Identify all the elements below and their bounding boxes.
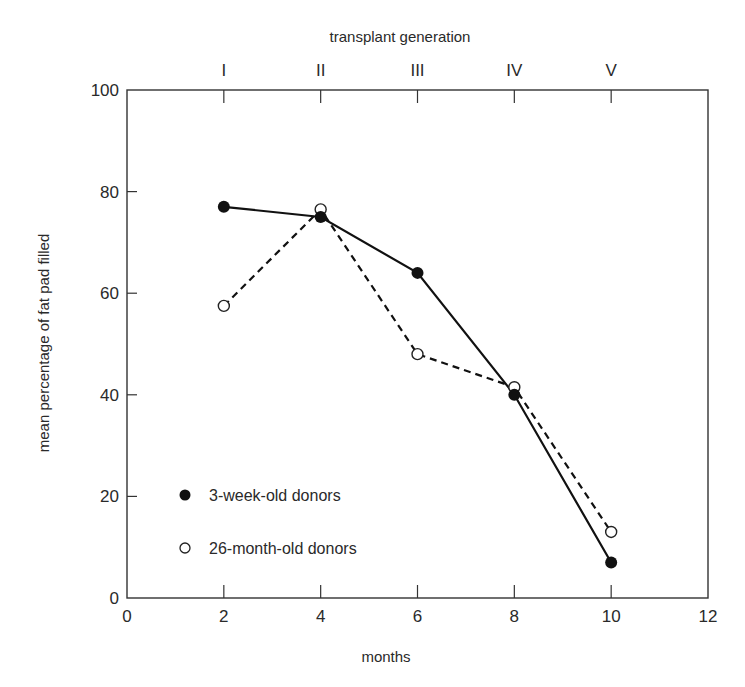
filled-circle-marker	[412, 267, 424, 279]
legend-filled-circle-icon	[180, 490, 191, 501]
axis-ticks: 020406080100024681012IIIIIIIVV	[91, 61, 718, 626]
plot-frame	[127, 90, 708, 598]
filled-circle-marker	[508, 389, 520, 401]
top-axis-title: transplant generation	[330, 28, 471, 45]
y-axis-title: mean percentage of fat pad filled	[35, 234, 52, 452]
legend-label-26-month: 26-month-old donors	[209, 540, 357, 557]
filled-circle-marker	[315, 211, 327, 223]
x-tick-label: 12	[699, 607, 718, 626]
x-tick-label: 4	[316, 607, 325, 626]
y-tick-label: 20	[100, 487, 119, 506]
x-tick-label: 6	[413, 607, 422, 626]
y-tick-label: 80	[100, 183, 119, 202]
y-tick-label: 0	[110, 589, 119, 608]
x-tick-label: 8	[510, 607, 519, 626]
chart: 020406080100024681012IIIIIIIVV transplan…	[0, 0, 745, 687]
series-3-week-old-donors	[224, 207, 611, 563]
plot-border	[127, 90, 708, 598]
legend-open-circle-icon	[180, 543, 190, 553]
top-tick-label: IV	[506, 61, 523, 80]
top-tick-label: I	[221, 61, 226, 80]
markers-3-week-old-donors	[218, 201, 617, 569]
x-tick-label: 2	[219, 607, 228, 626]
open-circle-marker	[412, 349, 423, 360]
axis-labels: transplant generation months mean percen…	[35, 28, 470, 665]
series-line	[224, 209, 611, 532]
y-tick-label: 100	[91, 81, 119, 100]
filled-circle-marker	[218, 201, 230, 213]
y-tick-label: 40	[100, 386, 119, 405]
x-axis-title: months	[361, 648, 410, 665]
legend: 3-week-old donors 26-month-old donors	[180, 487, 357, 557]
open-circle-marker	[218, 300, 229, 311]
x-tick-label: 0	[122, 607, 131, 626]
series-line	[224, 207, 611, 563]
top-tick-label: III	[410, 61, 424, 80]
filled-circle-marker	[605, 556, 617, 568]
line-chart-svg: 020406080100024681012IIIIIIIVV transplan…	[0, 0, 745, 687]
y-tick-label: 60	[100, 284, 119, 303]
x-tick-label: 10	[602, 607, 621, 626]
top-tick-label: II	[316, 61, 325, 80]
open-circle-marker	[606, 526, 617, 537]
series-26-month-old-donors	[224, 209, 611, 532]
legend-label-3-week: 3-week-old donors	[209, 487, 341, 504]
data-series	[218, 201, 617, 569]
top-tick-label: V	[605, 61, 617, 80]
